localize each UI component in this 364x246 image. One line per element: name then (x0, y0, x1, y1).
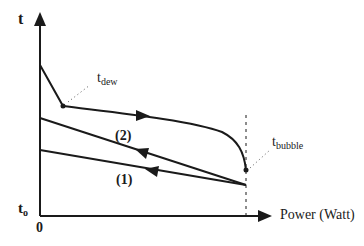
x-axis-label: Power (Watt) (280, 207, 355, 223)
curve-1-label: (1) (116, 172, 132, 188)
dew-leader (68, 85, 90, 102)
y-axis-label: t (18, 10, 23, 28)
x-axis-arrow-icon (258, 210, 272, 222)
dew-label: tdew (97, 70, 118, 86)
dew-sub: dew (101, 76, 118, 87)
baseline-sub: o (23, 207, 28, 218)
bubble-sub: bubble (276, 140, 303, 151)
baseline-label: to (18, 200, 28, 217)
arrow-left-icon (135, 148, 149, 159)
curve-2-label: (2) (115, 128, 131, 144)
bubble-point (244, 168, 249, 173)
bubble-label: tbubble (272, 134, 303, 150)
y-axis-arrow-icon (34, 12, 46, 26)
origin-label: 0 (36, 220, 43, 236)
dew-point (61, 104, 66, 109)
arrow-right-icon (136, 110, 150, 121)
bubble-leader (250, 150, 270, 168)
